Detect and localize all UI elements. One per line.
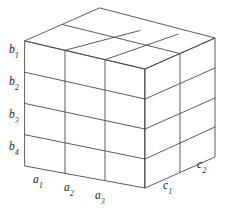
axis-label-b4-base: b	[9, 140, 15, 152]
axis-label-c1-sub: 1	[168, 187, 172, 196]
data-cube-figure: b1 b2 b3 b4 a1 a2 a3 c1 c2	[0, 0, 227, 214]
axis-label-c1: c1	[163, 180, 172, 192]
axis-label-b3-base: b	[9, 108, 15, 120]
axis-label-a1-base: a	[33, 173, 39, 185]
front-face-vertical-dividers	[65, 50, 105, 180]
axis-label-b2-base: b	[9, 75, 15, 87]
axis-label-a3-base: a	[95, 189, 101, 201]
axis-label-b3-sub: 3	[15, 116, 19, 125]
axis-label-b1-sub: 1	[15, 51, 19, 60]
axis-label-b2-sub: 2	[15, 83, 19, 92]
axis-label-b2: b2	[9, 76, 19, 88]
axis-label-a3-sub: 3	[101, 197, 105, 206]
top-face-c-divider	[63, 25, 181, 54]
axis-label-b4: b4	[9, 141, 19, 153]
axis-label-b3: b3	[9, 109, 19, 121]
front-face-outline	[25, 41, 145, 188]
axis-label-a1-sub: 1	[39, 181, 43, 190]
front-face-horizontal-dividers	[25, 72, 145, 159]
axis-label-b1-base: b	[9, 43, 15, 55]
axis-label-a3: a3	[95, 190, 105, 202]
axis-label-c2: c2	[197, 159, 206, 171]
axis-label-a2-sub: 2	[70, 189, 74, 198]
axis-label-b4-sub: 4	[15, 148, 19, 157]
axis-label-a2-base: a	[64, 181, 70, 193]
axis-label-a1: a1	[33, 174, 43, 186]
axis-label-b1: b1	[9, 44, 19, 56]
top-face-a-dividers	[65, 31, 178, 60]
axis-label-c2-sub: 2	[202, 166, 206, 175]
axis-label-a2: a2	[64, 182, 74, 194]
